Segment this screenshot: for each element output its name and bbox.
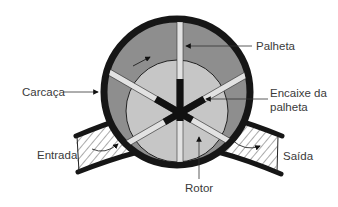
label-rotor: Rotor — [185, 182, 213, 194]
label-vane: Palheta — [256, 40, 296, 52]
rotor-hub — [173, 106, 187, 120]
vane — [177, 113, 184, 168]
label-vane-slot-line1: Encaixe da — [270, 87, 328, 99]
label-casing: Carcaça — [22, 86, 65, 98]
label-inlet: Entrada — [37, 149, 78, 161]
vane — [177, 18, 184, 113]
label-vane-slot-line2: palheta — [270, 101, 308, 113]
vane-pump-diagram: Carcaça Palheta Encaixe da palheta Entra… — [0, 0, 338, 207]
label-outlet: Saída — [283, 150, 314, 162]
